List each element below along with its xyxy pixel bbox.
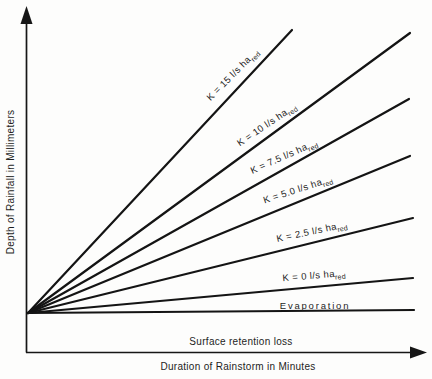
y-axis-label: Depth of Rainfall in Millimeters bbox=[5, 110, 16, 255]
series-line-5 bbox=[28, 278, 413, 313]
series-line-4 bbox=[28, 218, 413, 313]
series-line-3 bbox=[28, 156, 410, 313]
x-axis-label: Duration of Rainstorm in Minutes bbox=[160, 361, 315, 372]
series-line-1 bbox=[28, 33, 410, 313]
fan-lines-group bbox=[28, 30, 414, 313]
x-axis-arrow-icon bbox=[410, 347, 427, 359]
series-label-subscript: red bbox=[335, 273, 346, 281]
series-line-2 bbox=[28, 99, 409, 313]
rainfall-duration-chart: K = 15 l/s haredK = 10 l/s haredK = 7.5 … bbox=[0, 0, 432, 379]
chart-canvas bbox=[0, 0, 432, 379]
series-line-6 bbox=[28, 310, 414, 313]
series-label-6: Evaporation bbox=[280, 300, 351, 311]
surface-retention-label: Surface retention loss bbox=[189, 336, 292, 347]
series-label-text: Evaporation bbox=[280, 300, 351, 311]
y-axis-arrow-icon bbox=[21, 6, 33, 24]
